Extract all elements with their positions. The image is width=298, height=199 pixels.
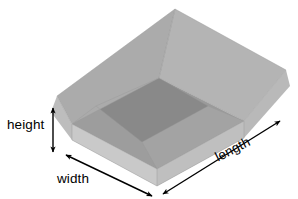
box-illustration (0, 0, 298, 199)
height-label: height (7, 118, 44, 132)
width-label: width (57, 172, 89, 186)
box-diagram: height width length (0, 0, 298, 199)
